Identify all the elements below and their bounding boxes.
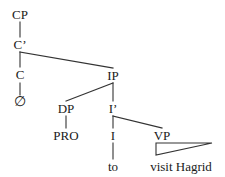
node-c: C bbox=[16, 68, 25, 81]
edge-ibar-vp bbox=[113, 116, 162, 128]
terminal-null: ∅ bbox=[14, 95, 26, 108]
syntax-tree-figure: CP C’ C ∅ IP DP PRO I’ I to VP visit Hag… bbox=[0, 0, 225, 177]
edge-vp-triangle bbox=[156, 143, 212, 155]
node-ip: IP bbox=[107, 69, 119, 82]
node-dp: DP bbox=[58, 102, 75, 115]
terminal-to: to bbox=[108, 160, 118, 173]
node-cbar: C’ bbox=[14, 38, 27, 51]
node-ibar: I’ bbox=[109, 102, 118, 115]
node-vp: VP bbox=[154, 129, 171, 142]
edge-cbar-ip bbox=[20, 52, 113, 68]
edge-ip-dp bbox=[66, 83, 113, 101]
terminal-vp-phrase: visit Hagrid bbox=[150, 160, 212, 173]
terminal-pro: PRO bbox=[53, 129, 78, 142]
node-i: I bbox=[111, 129, 115, 142]
node-cp: CP bbox=[12, 8, 28, 21]
tree-branches bbox=[0, 0, 225, 177]
